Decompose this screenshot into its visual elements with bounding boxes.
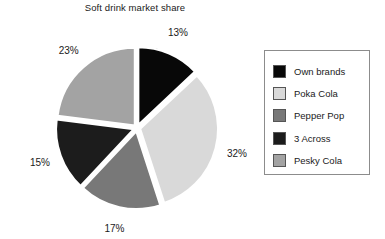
legend-item-label: 3 Across [294, 133, 330, 144]
legend-item[interactable]: Pesky Cola [273, 150, 365, 172]
legend-item-label: Own brands [294, 66, 345, 77]
pie-slice[interactable] [57, 48, 134, 126]
legend-color-swatch [273, 65, 286, 78]
pie-chart: Soft drink market share 13%32%17%15%23% … [0, 0, 385, 239]
legend-item-label: Pepper Pop [294, 110, 344, 121]
pie-slice-label: 13% [168, 27, 188, 39]
legend-color-swatch [273, 87, 286, 100]
pie-slice-label: 23% [59, 45, 79, 57]
legend-item-label: Pesky Cola [294, 155, 342, 166]
legend-color-swatch [273, 109, 286, 122]
legend-item[interactable]: Poka Cola [273, 82, 365, 104]
legend-item[interactable]: Pepper Pop [273, 105, 365, 127]
legend-item-label: Poka Cola [294, 88, 338, 99]
pie-slice-label: 17% [104, 223, 124, 235]
pie-plot-area: 13%32%17%15%23% [0, 0, 270, 239]
pie-slice-label: 32% [227, 148, 247, 160]
legend-item[interactable]: Own brands [273, 60, 365, 82]
chart-legend: Own brandsPoka ColaPepper Pop3 AcrossPes… [264, 50, 370, 175]
legend-item-list: Own brandsPoka ColaPepper Pop3 AcrossPes… [273, 60, 365, 172]
legend-item[interactable]: 3 Across [273, 127, 365, 149]
pie-slice-group [56, 47, 218, 209]
legend-color-swatch [273, 154, 286, 167]
legend-color-swatch [273, 132, 286, 145]
pie-slice-label: 15% [30, 157, 50, 169]
pie-svg [0, 0, 270, 239]
